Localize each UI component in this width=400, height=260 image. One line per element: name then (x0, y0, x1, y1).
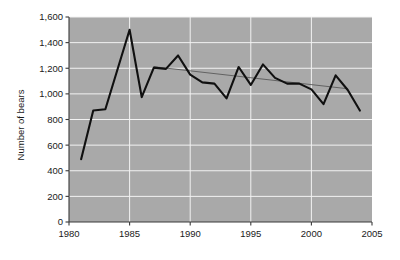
y-tick-label: 200 (47, 191, 63, 202)
x-tick-label: 1995 (240, 228, 261, 239)
x-tick-label: 2000 (301, 228, 322, 239)
x-tick-label: 1980 (58, 228, 79, 239)
chart-canvas: 02004006008001,0001,2001,4001,600 198019… (0, 0, 400, 260)
x-tick-label: 2005 (361, 228, 382, 239)
y-tick-label: 800 (47, 114, 63, 125)
y-axis-title: Number of bears (15, 89, 26, 160)
y-tick-label: 0 (58, 216, 63, 227)
y-tick-label: 1,200 (39, 63, 63, 74)
y-tick-label: 400 (47, 165, 63, 176)
bear-population-chart: 02004006008001,0001,2001,4001,600 198019… (0, 0, 400, 260)
x-tick-label: 1985 (119, 228, 140, 239)
y-tick-label: 600 (47, 140, 63, 151)
y-tick-label: 1,000 (39, 88, 63, 99)
x-tick-label: 1990 (180, 228, 201, 239)
y-tick-label: 1,400 (39, 37, 63, 48)
y-tick-label: 1,600 (39, 11, 63, 22)
